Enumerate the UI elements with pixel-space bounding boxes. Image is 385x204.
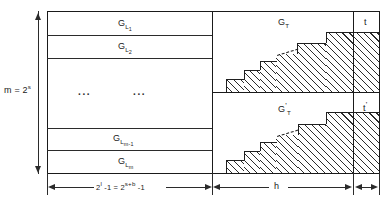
label-glm-index: m bbox=[129, 164, 134, 170]
dim-center-line-b bbox=[288, 187, 346, 188]
gt-outline-h3 bbox=[260, 61, 277, 62]
gt-outline-h4 bbox=[297, 43, 326, 44]
gtp-stair-step-1 bbox=[226, 160, 244, 173]
gt-stair-step-3 bbox=[260, 61, 276, 92]
dim-tick-mid2 bbox=[353, 173, 354, 195]
dim-center-arrow-right bbox=[345, 184, 352, 190]
label-m-equals-2s: m = 2s bbox=[4, 84, 31, 95]
gt-outline-v1 bbox=[226, 79, 227, 92]
ellipsis-right: ... bbox=[133, 86, 146, 97]
gt-hatch-5 bbox=[297, 43, 326, 92]
ellipsis-left: ... bbox=[78, 86, 91, 97]
label-gt-sub: T bbox=[285, 22, 289, 29]
label-left-dimension: 2l -1 = 2s+b -1 bbox=[96, 181, 145, 191]
dim-left-tail: -1 bbox=[136, 183, 145, 192]
label-glm: GLm bbox=[118, 157, 134, 170]
dim-left-mid: -1 = 2 bbox=[102, 183, 125, 192]
gt-outline-h2 bbox=[244, 70, 260, 71]
dim-center-arrow-left bbox=[213, 184, 220, 190]
label-gtp-sub: T bbox=[287, 109, 291, 116]
t-column-hatch-top bbox=[354, 32, 379, 92]
gtp-outline-h2 bbox=[244, 151, 260, 152]
t-hatch-top bbox=[354, 32, 379, 92]
gt-outline-h1 bbox=[226, 79, 244, 80]
gtp-outline-h1 bbox=[226, 160, 244, 161]
gtp-stair-step-4 bbox=[276, 135, 298, 173]
gtp-stair-step-2 bbox=[244, 151, 260, 173]
gtp-stair-step-3 bbox=[260, 142, 276, 173]
gtp-hatch-5 bbox=[298, 124, 326, 173]
gt-stair-step-4 bbox=[276, 54, 297, 92]
gt-stair-step-5 bbox=[297, 43, 326, 92]
label-t-prime: t' bbox=[363, 101, 367, 113]
vertical-dimension-arrow-up bbox=[35, 13, 41, 20]
gtp-hatch-4 bbox=[276, 135, 298, 173]
gtp-outline-v5 bbox=[326, 112, 327, 124]
gtp-stair-step-6 bbox=[326, 112, 353, 173]
row-separator-4 bbox=[47, 150, 212, 151]
label-t: t bbox=[364, 18, 367, 27]
dim-left-line-a bbox=[54, 187, 94, 188]
dim-center-line-a bbox=[219, 187, 269, 188]
dim-left-arrow-right bbox=[205, 184, 212, 190]
middle-block-divider bbox=[212, 92, 380, 93]
label-gt-prime: G'T bbox=[278, 102, 291, 116]
gt-stair-step-1 bbox=[226, 79, 244, 92]
row-separator-3 bbox=[47, 128, 212, 129]
label-gl2-index: 2 bbox=[129, 49, 132, 55]
dim-left-exp2: s+b bbox=[125, 180, 136, 187]
label-m-base: m = 2 bbox=[4, 85, 28, 95]
gtp-outline-v3 bbox=[260, 142, 261, 151]
gtp-outline-v1 bbox=[226, 160, 227, 173]
gt-hatch-1 bbox=[226, 79, 244, 92]
gt-outline-h5 bbox=[326, 32, 379, 33]
dim-right-arrow-right bbox=[371, 184, 378, 190]
dim-left-line-b bbox=[166, 187, 206, 188]
table-top-border bbox=[47, 11, 380, 12]
gt-outline-v5 bbox=[326, 32, 327, 43]
gtp-outline-h3 bbox=[260, 142, 277, 143]
row-separator-2 bbox=[47, 58, 212, 59]
t-hatch-bottom bbox=[354, 112, 379, 173]
gtp-outline-v2 bbox=[244, 151, 245, 160]
vertical-dimension-arrow-down bbox=[35, 166, 41, 173]
figure-container: GL1 GL2 ... ... GLm-1 GLm m = 2s bbox=[0, 0, 385, 204]
gt-outline-v2 bbox=[244, 70, 245, 79]
table-bottom-border bbox=[47, 173, 380, 174]
gtp-outline-h5 bbox=[326, 112, 379, 113]
gt-hatch-4 bbox=[276, 54, 297, 92]
label-gl1-index: 1 bbox=[129, 26, 132, 32]
gt-hatch-6 bbox=[326, 32, 353, 92]
dim-left-arrow-left bbox=[48, 184, 55, 190]
label-gt: GT bbox=[278, 18, 289, 29]
label-tp-prime-mark: ' bbox=[366, 100, 368, 109]
t-column-hatch-bottom bbox=[354, 112, 379, 173]
label-center-dimension: h bbox=[274, 182, 279, 191]
gt-hatch-2 bbox=[244, 70, 260, 92]
gt-hatch-3 bbox=[260, 61, 276, 92]
label-gl1: GL1 bbox=[118, 19, 132, 32]
gtp-hatch-2 bbox=[244, 151, 260, 173]
label-t-text: t bbox=[364, 17, 367, 27]
label-glm1: GLm-1 bbox=[113, 134, 134, 147]
gtp-hatch-6 bbox=[326, 112, 353, 173]
gtp-hatch-3 bbox=[260, 142, 276, 173]
vertical-dimension-line bbox=[38, 11, 39, 174]
gtp-stair-step-5 bbox=[298, 124, 326, 173]
dim-right-arrow-left bbox=[355, 184, 362, 190]
gt-stair-step-2 bbox=[244, 70, 260, 92]
gtp-outline-h4 bbox=[298, 124, 326, 125]
label-gl2: GL2 bbox=[118, 42, 132, 55]
gtp-hatch-1 bbox=[226, 160, 244, 173]
label-glm1-index: m-1 bbox=[124, 141, 134, 147]
row-separator-1 bbox=[47, 35, 212, 36]
dim-tick-right bbox=[379, 173, 380, 195]
gt-outline-v3 bbox=[260, 61, 261, 70]
gt-stair-step-6 bbox=[326, 32, 353, 92]
label-m-exponent: s bbox=[28, 83, 31, 90]
